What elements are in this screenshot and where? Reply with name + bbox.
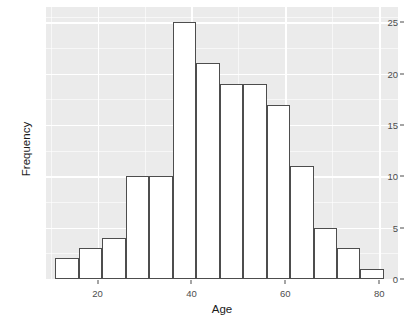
y-axis-tick-label: 15	[387, 120, 398, 131]
y-axis-tick-mark	[400, 73, 404, 74]
histogram-bar	[173, 22, 196, 279]
y-axis-tick-label: 10	[387, 171, 398, 182]
histogram-bar	[55, 258, 78, 279]
x-axis-tick-mark	[97, 280, 98, 284]
y-axis-tick-mark	[400, 22, 404, 23]
histogram-plot: 0510152025 20406080 Age Frequency	[0, 0, 412, 333]
y-axis-tick-mark	[400, 227, 404, 228]
histogram-bar	[360, 269, 383, 279]
histogram-bar	[126, 176, 149, 279]
x-axis-title: Age	[46, 303, 398, 315]
x-axis-tick-mark	[191, 280, 192, 284]
x-axis-tick-label: 20	[92, 288, 103, 299]
x-axis-tick-mark	[285, 280, 286, 284]
histogram-bar	[79, 248, 102, 279]
histogram-bar	[196, 63, 219, 279]
y-axis-tick-label: 5	[393, 222, 398, 233]
y-axis-tick-label: 25	[387, 17, 398, 28]
x-axis-tick-label: 80	[374, 288, 385, 299]
y-axis-tick-mark	[400, 176, 404, 177]
histogram-bar	[220, 84, 243, 279]
histogram-bar	[337, 248, 360, 279]
gridline-major-vertical	[379, 7, 380, 279]
histogram-bar	[314, 228, 337, 279]
chart-title	[0, 0, 412, 5]
x-axis-tick-mark	[379, 280, 380, 284]
histogram-bar	[102, 238, 125, 279]
y-axis-tick-label: 20	[387, 68, 398, 79]
y-axis-tick-label: 0	[393, 274, 398, 285]
y-axis-tick-mark	[400, 125, 404, 126]
y-axis-title: Frequency	[20, 69, 32, 229]
histogram-bar	[243, 84, 266, 279]
histogram-bar	[290, 166, 313, 279]
y-axis-tick-mark	[400, 279, 404, 280]
x-axis-tick-label: 60	[280, 288, 291, 299]
x-axis-tick-label: 40	[186, 288, 197, 299]
gridline-major-vertical	[98, 7, 99, 279]
gridline-minor-vertical	[51, 7, 52, 279]
histogram-bar	[149, 176, 172, 279]
plot-panel	[46, 7, 398, 279]
histogram-bar	[267, 105, 290, 279]
